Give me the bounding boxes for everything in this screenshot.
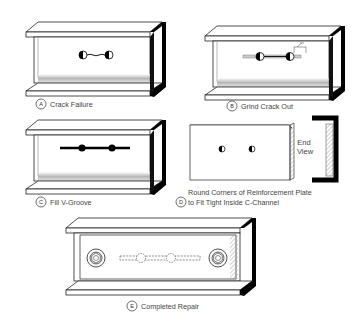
panel-a-crack-failure [26, 22, 166, 97]
svg-text:End: End [297, 138, 310, 147]
svg-text:Grind Crack Out: Grind Crack Out [241, 102, 293, 111]
step-a-label: A Crack Failure [36, 99, 93, 109]
step-b-label: B Grind Crack Out [227, 101, 293, 111]
bolt-hole [249, 146, 255, 152]
step-e-label: E Completed Repair [127, 301, 200, 311]
panel-d-reinforcement-plate: End View [190, 118, 336, 180]
bolt-hole [219, 146, 225, 152]
svg-text:to Fit Tight Inside C-Channel: to Fit Tight Inside C-Channel [188, 198, 279, 207]
svg-text:Completed Repair: Completed Repair [141, 302, 200, 311]
svg-text:A: A [39, 101, 43, 107]
panel-c-fill-v-groove [26, 120, 166, 195]
svg-text:D: D [179, 199, 183, 205]
svg-text:E: E [130, 303, 134, 309]
step-c-label: C Fill V-Groove [36, 197, 92, 207]
bolt-right [209, 249, 227, 267]
repair-diagram: A Crack Failure B Grind Crack Out [0, 0, 364, 326]
svg-text:C: C [39, 199, 43, 205]
panel-b-grind-crack-out [205, 26, 345, 101]
panel-e-completed-repair [66, 218, 256, 296]
svg-text:Round Corners of Reinforcement: Round Corners of Reinforcement Plate [188, 188, 312, 197]
bolt-left [87, 249, 105, 267]
svg-text:B: B [230, 103, 234, 109]
svg-text:Fill V-Groove: Fill V-Groove [50, 198, 92, 207]
step-d-label: Round Corners of Reinforcement Plate D t… [176, 188, 312, 208]
svg-text:Crack Failure: Crack Failure [50, 100, 93, 109]
end-view: End View [297, 118, 336, 180]
svg-text:View: View [297, 147, 314, 156]
